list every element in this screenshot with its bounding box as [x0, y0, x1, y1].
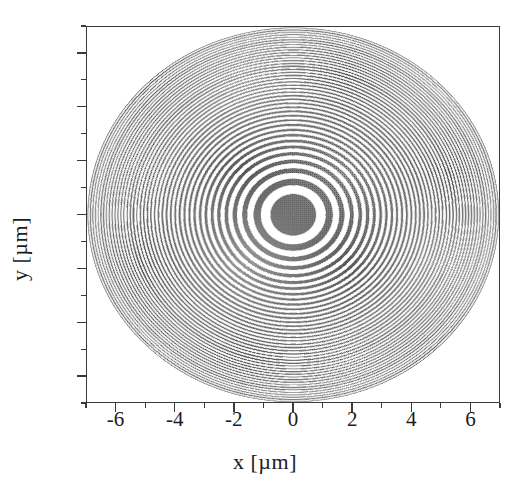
y-tick-minor: [81, 241, 86, 242]
x-tick-minor: [145, 403, 146, 408]
x-tick-label: 2: [347, 409, 358, 430]
x-tick-minor: [263, 403, 264, 408]
x-tick-label: -2: [225, 409, 243, 430]
fresnel-zone-plate-pattern: [87, 27, 499, 402]
figure-panel: -6-4-202466420-2-4-6 x [µm] y [µm]: [0, 0, 530, 498]
y-tick-minor: [81, 79, 86, 80]
y-axis-title: y [µm]: [0, 0, 40, 498]
x-tick-label: -4: [166, 409, 184, 430]
y-tick-major: [77, 322, 86, 323]
y-tick-minor: [81, 402, 86, 403]
x-tick-minor: [499, 403, 500, 408]
x-tick-minor: [85, 403, 86, 408]
y-tick-minor: [81, 295, 86, 296]
x-tick-minor: [381, 403, 382, 408]
y-tick-minor: [81, 133, 86, 134]
x-tick-label: 4: [406, 409, 417, 430]
y-tick-major: [77, 268, 86, 269]
y-tick-major: [77, 160, 86, 161]
x-tick-minor: [204, 403, 205, 408]
y-tick-major: [77, 106, 86, 107]
plot-area: [86, 26, 500, 403]
x-tick-minor: [322, 403, 323, 408]
y-tick-major: [77, 214, 86, 215]
x-tick-label: 6: [465, 409, 476, 430]
x-tick-label: -6: [107, 409, 125, 430]
x-axis-title: x [µm]: [0, 449, 530, 475]
y-tick-major: [77, 52, 86, 53]
y-tick-minor: [81, 25, 86, 26]
x-tick-minor: [440, 403, 441, 408]
x-tick-label: 0: [288, 409, 299, 430]
y-tick-major: [77, 375, 86, 376]
y-tick-minor: [81, 349, 86, 350]
y-tick-minor: [81, 187, 86, 188]
